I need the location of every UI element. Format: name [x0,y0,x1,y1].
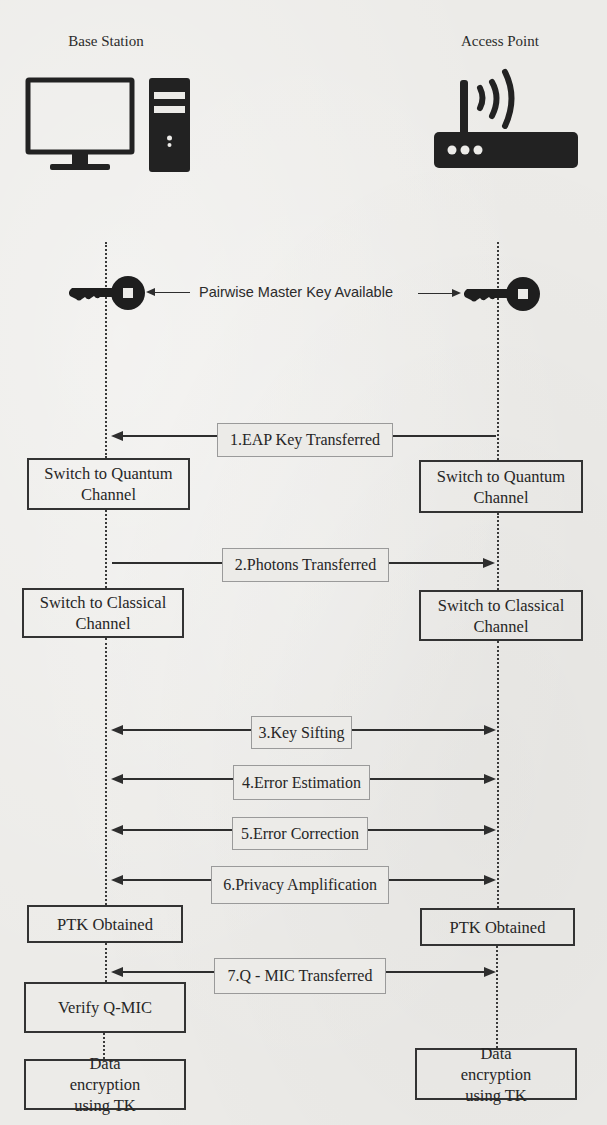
message-label-1: 1.EAP Key Transferred [217,423,393,457]
message-label-4: 4.Error Estimation [233,765,370,800]
lifeline-base-station [105,943,107,982]
actor-label-base-station: Base Station [68,33,143,50]
lifeline-access-point [497,641,499,908]
state-box-left-verify: Verify Q-MIC [24,982,186,1033]
state-box-left-encrypt: Data encryption using TK [24,1059,186,1110]
state-box-left-classical: Switch to Classical Channel [22,588,184,638]
state-box-right-classical: Switch to Classical Channel [419,590,583,641]
state-box-right-quantum: Switch to Quantum Channel [419,460,583,513]
actor-label-access-point: Access Point [461,33,539,50]
key-icon-right [461,276,543,314]
message-label-2: 2.Photons Transferred [222,548,389,582]
lifeline-access-point [497,513,499,590]
arrow-head [484,725,496,735]
lifeline-access-point [496,946,498,1048]
pmk-arrow-left [152,292,190,293]
state-box-right-ptk: PTK Obtained [420,908,575,946]
message-label-3: 3.Key Sifting [251,716,352,749]
arrow-head [484,875,496,885]
lifeline-access-point [497,242,499,460]
pmk-label: Pairwise Master Key Available [199,284,393,300]
arrow-head [483,558,495,568]
arrow-head [484,774,496,784]
pmk-arrow-right [418,293,454,294]
message-label-5: 5.Error Correction [232,817,368,850]
message-label-6: 6.Privacy Amplification [211,866,389,904]
wifi-router-icon [430,60,582,172]
arrow-head [452,289,461,297]
message-label-7: 7.Q - MIC Transferred [214,958,386,994]
lifeline-base-station [105,510,107,588]
arrow-head [484,967,496,977]
key-icon-left [66,275,148,313]
arrow-head [484,825,496,835]
state-box-left-ptk: PTK Obtained [27,905,183,943]
lifeline-base-station [105,638,107,905]
state-box-left-quantum: Switch to Quantum Channel [27,458,190,510]
desktop-computer-icon [22,74,194,176]
state-box-right-encrypt: Data encryption using TK [415,1048,577,1100]
